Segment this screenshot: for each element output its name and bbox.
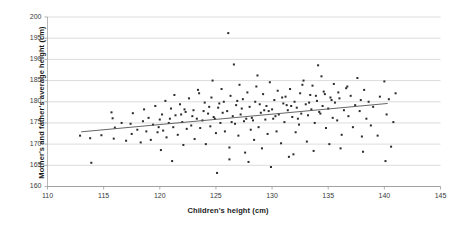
y-tick-label: 200 bbox=[12, 13, 42, 20]
x-tick-label: 120 bbox=[145, 192, 175, 199]
y-tick-label: 195 bbox=[12, 34, 42, 41]
y-tick-label: 160 bbox=[12, 182, 42, 189]
gridlines bbox=[48, 17, 441, 187]
data-points bbox=[79, 32, 397, 174]
x-tick-label: 110 bbox=[33, 192, 63, 199]
scatter-chart: Mother's and father's average height (cm… bbox=[0, 0, 456, 233]
y-tick-label: 190 bbox=[12, 55, 42, 62]
x-tick-label: 115 bbox=[89, 192, 119, 199]
x-tick-label: 135 bbox=[313, 192, 343, 199]
trendline bbox=[81, 103, 388, 131]
y-tick-label: 170 bbox=[12, 140, 42, 147]
y-tick-label: 175 bbox=[12, 118, 42, 125]
x-axis-title: Children's height (cm) bbox=[0, 206, 456, 215]
x-tick-label: 140 bbox=[369, 192, 399, 199]
x-tick-label: 125 bbox=[201, 192, 231, 199]
x-tick-label: 145 bbox=[426, 192, 456, 199]
y-tick-label: 185 bbox=[12, 76, 42, 83]
y-tick-label: 180 bbox=[12, 97, 42, 104]
y-tick-label: 165 bbox=[12, 161, 42, 168]
x-tick-label: 130 bbox=[257, 192, 287, 199]
axis-tickmarks bbox=[45, 17, 441, 190]
